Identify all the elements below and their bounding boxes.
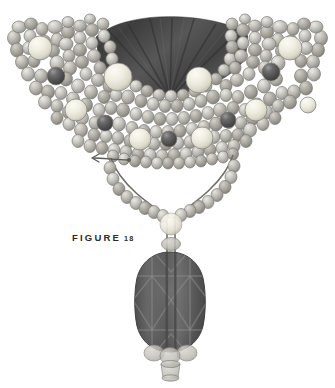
spacer-bead (162, 238, 181, 251)
necklace-artwork (0, 0, 335, 388)
junction-bead (160, 213, 182, 235)
figure-illustration: FIGURE18 (0, 0, 335, 388)
figure-caption: FIGURE18 (72, 227, 135, 245)
figure-caption-number: 18 (124, 234, 134, 243)
figure-caption-label: FIGURE (72, 232, 121, 243)
